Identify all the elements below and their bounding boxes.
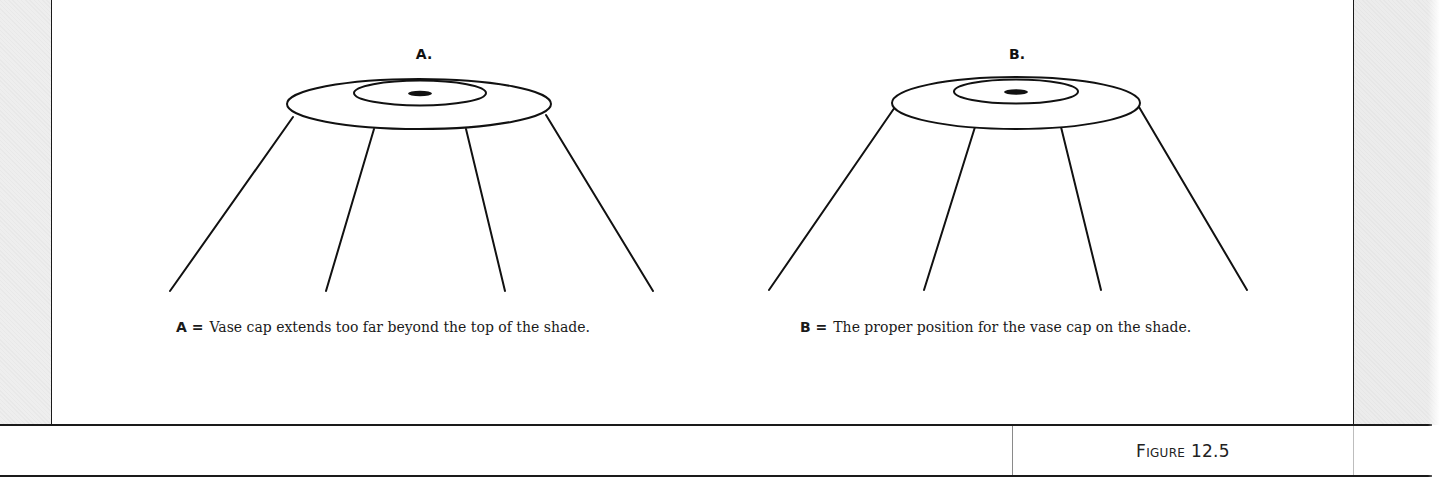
panel-b-caption-key: B =	[800, 319, 827, 335]
panel-a-rib-4	[546, 115, 653, 291]
footer-bottom-rule	[0, 475, 1432, 477]
footer-divider-right	[1353, 426, 1354, 475]
panel-a-rib-1	[170, 117, 293, 291]
panel-b-caption: B =The proper position for the vase cap …	[800, 319, 1191, 335]
lampshade-diagram	[0, 0, 1440, 483]
panel-b-rib-2	[924, 127, 975, 290]
panel-a-caption: A =Vase cap extends too far beyond the t…	[176, 319, 590, 335]
figure-prefix: Figure	[1136, 441, 1185, 461]
panel-a-center-hole	[408, 91, 432, 97]
figure-number-label: Figure 12.5	[1013, 426, 1353, 475]
panel-a-caption-key: A =	[176, 319, 203, 335]
panel-b-rib-4	[1139, 107, 1247, 290]
figure-number: 12.5	[1191, 441, 1230, 461]
panel-b-caption-text: The proper position for the vase cap on …	[833, 319, 1191, 335]
panel-a-rib-3	[466, 129, 505, 291]
panel-a-caption-text: Vase cap extends too far beyond the top …	[209, 319, 590, 335]
panel-b-center-hole	[1004, 89, 1028, 95]
panel-b-rib-3	[1061, 127, 1101, 290]
panel-a-vase-cap-outer	[287, 79, 551, 129]
panel-b-drawing	[769, 77, 1247, 290]
panel-a-rib-2	[326, 129, 374, 291]
page-edge-shadow	[1428, 0, 1440, 483]
panel-b-rib-1	[769, 107, 895, 290]
panel-a-drawing	[170, 79, 653, 291]
